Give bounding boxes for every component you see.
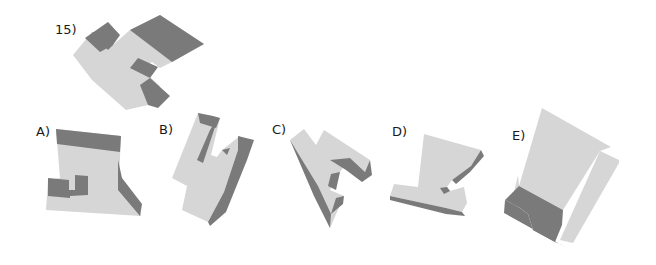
question-figure — [73, 15, 204, 110]
option-c-figure[interactable] — [290, 129, 372, 228]
option-b-figure[interactable] — [172, 113, 254, 226]
option-d-figure[interactable] — [390, 134, 484, 216]
figures-canvas — [0, 0, 656, 265]
option-e-figure[interactable] — [504, 108, 619, 248]
option-a-figure[interactable] — [46, 129, 142, 216]
